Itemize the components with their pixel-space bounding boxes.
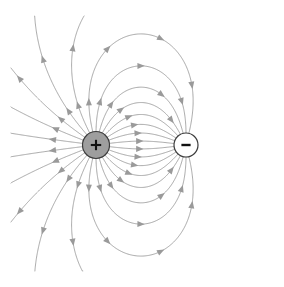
field-direction-arrow: [178, 184, 186, 193]
field-line: [107, 124, 176, 138]
field-direction-arrow: [64, 106, 73, 115]
field-direction-arrow: [86, 98, 92, 105]
field-direction-arrow: [136, 138, 143, 144]
field-direction-arrow: [86, 185, 92, 192]
field-line: [96, 156, 186, 224]
field-direction-arrow: [64, 174, 73, 183]
field-line: [107, 152, 176, 166]
field-direction-arrow: [137, 221, 144, 227]
field-direction-arrow: [156, 247, 165, 256]
field-direction-arrow: [137, 63, 144, 69]
field-direction-arrow: [125, 113, 134, 121]
field-direction-arrow: [96, 184, 104, 193]
charge-markers-group: [83, 132, 199, 159]
field-line: [109, 133, 175, 141]
field-line: [99, 156, 183, 203]
field-direction-arrow: [134, 154, 142, 160]
field-line-canvas: [0, 0, 284, 287]
field-direction-arrow: [107, 99, 116, 108]
field-line: [11, 133, 83, 143]
field-direction-arrow: [74, 181, 82, 190]
field-direction-arrow: [74, 100, 82, 109]
field-line: [96, 66, 186, 134]
field-line: [99, 87, 183, 134]
field-direction-arrow: [69, 238, 76, 246]
field-line: [11, 147, 83, 157]
field-direction-arrow: [125, 169, 134, 177]
dipole-field-figure: [0, 0, 284, 287]
field-direction-arrow: [51, 124, 60, 132]
field-direction-arrow: [156, 34, 165, 43]
field-line: [35, 155, 87, 271]
field-line: [72, 16, 90, 133]
negative-charge: [174, 133, 198, 157]
field-direction-arrow: [96, 97, 104, 106]
field-line: [35, 16, 87, 135]
field-direction-arrow: [69, 44, 76, 52]
field-direction-arrow: [136, 146, 143, 152]
field-direction-arrow: [51, 157, 60, 165]
field-line: [72, 157, 90, 271]
field-direction-arrow: [39, 54, 47, 63]
field-direction-arrow: [107, 181, 116, 190]
field-direction-arrow: [178, 97, 186, 106]
field-direction-arrow: [134, 130, 142, 136]
field-direction-arrow: [39, 227, 47, 236]
field-line: [109, 149, 175, 157]
positive-charge: [83, 132, 110, 159]
